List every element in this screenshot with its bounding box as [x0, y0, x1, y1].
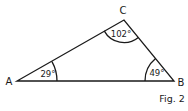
- figure-caption: Fig. 2: [159, 93, 185, 104]
- vertex-label-a: A: [6, 76, 13, 87]
- angle-label-a: 29°: [40, 69, 55, 79]
- angle-label-b: 49°: [149, 68, 164, 78]
- angle-label-c: 102°: [111, 29, 131, 39]
- vertex-label-b: B: [178, 77, 185, 88]
- triangle-diagram: C A B 102° 29° 49° Fig. 2: [0, 0, 188, 111]
- vertex-label-c: C: [120, 5, 127, 16]
